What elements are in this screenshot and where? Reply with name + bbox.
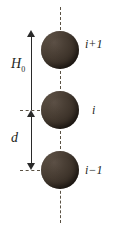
d-dimension-line xyxy=(31,117,32,163)
index-label-i: i xyxy=(92,104,95,116)
h0-dimension-line xyxy=(31,37,32,110)
sphere-i-plus-1 xyxy=(41,31,79,69)
sphere-i-minus-1 xyxy=(41,151,79,189)
d-arrowhead-up-icon xyxy=(27,110,35,117)
d-arrowhead-down-icon xyxy=(27,163,35,170)
d-label: d xyxy=(11,131,18,145)
center-axis-dashed-line-bottom xyxy=(60,186,61,223)
center-axis-dashed-line-lower-gap xyxy=(60,126,61,154)
h0-label: H0 xyxy=(11,57,25,74)
h0-arrowhead-up-icon xyxy=(27,30,35,37)
h0-label-subscript: 0 xyxy=(21,65,25,74)
index-label-i-plus-1: i+1 xyxy=(85,38,102,50)
sphere-i xyxy=(41,91,79,129)
index-label-i-minus-1: i−1 xyxy=(85,164,102,176)
reference-line-bottom-left xyxy=(20,170,40,171)
chain-of-spheres-diagram: H0 d i+1 i i−1 xyxy=(0,0,115,230)
center-axis-dashed-line-upper-gap xyxy=(60,66,61,94)
h0-label-base: H xyxy=(11,56,21,71)
